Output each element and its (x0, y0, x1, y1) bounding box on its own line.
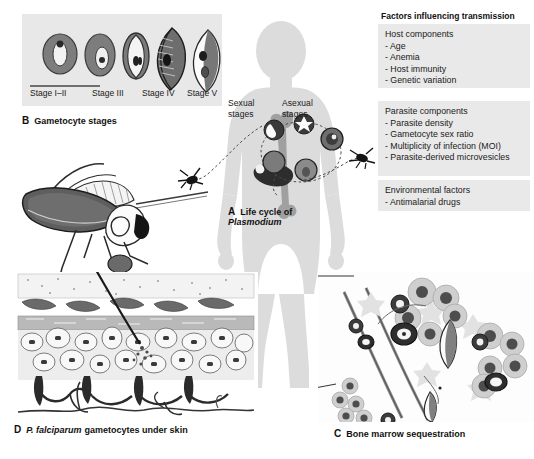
panel-a-caption-line2: Plasmodium (228, 217, 338, 227)
gametocyte-stage-1-2 (43, 34, 77, 74)
factors-group-1-item-1: - Gametocyte sex ratio (385, 129, 530, 141)
panel-a-caption: A Life cycle of Plasmodium (228, 206, 338, 227)
factors-parasite-components-box: Parasite components - Parasite density -… (378, 101, 530, 176)
panel-a-letter: A (228, 206, 235, 217)
factors-group-1-item-2: - Multiplicity of infection (MOI) (385, 141, 530, 153)
gametocyte-stage-1-2b (85, 34, 115, 76)
panel-d-letter: D (14, 424, 21, 435)
factors-title: Factors influencing transmission (381, 11, 515, 21)
panel-b-caption: B Gametocyte stages (22, 115, 117, 126)
factors-group-2-item-0: - Antimalarial drugs (385, 197, 530, 209)
panel-d-caption-italic: P. falciparum (26, 425, 81, 435)
panel-b-stage-labels: Stage I–II Stage III Stage IV Stage V (24, 88, 224, 102)
mosquito-large-illustration (8, 152, 213, 287)
mosquito-small-icon-right (349, 148, 375, 169)
panel-d-caption: D P. falciparum gametocytes under skin (14, 424, 188, 435)
factors-group-0-heading: Host components (385, 29, 530, 41)
factors-group-1-item-3: - Parasite-derived microvesicles (385, 152, 530, 164)
label-sexual-stages: Sexual stages (228, 98, 270, 120)
factors-group-1-heading: Parasite components (385, 106, 530, 118)
panel-d-caption-rest: gametocytes under skin (85, 425, 188, 435)
label-asexual-stages: Asexual stages (282, 98, 332, 120)
label-sexual-line1: Sexual (228, 98, 270, 109)
factors-group-0-item-1: - Anemia (385, 52, 530, 64)
factors-group-2-heading: Environmental factors (385, 185, 530, 197)
label-asexual-line1: Asexual (282, 98, 332, 109)
panel-b-letter: B (22, 115, 29, 126)
factors-group-0-item-2: - Host immunity (385, 64, 530, 76)
gametocyte-stage-3 (123, 33, 149, 79)
factors-group-0-item-0: - Age (385, 41, 530, 53)
transmission-path-from-mosquito (300, 130, 380, 200)
panel-c-caption-text: Bone marrow sequestration (346, 429, 465, 439)
factors-host-components-box: Host components - Age - Anemia - Host im… (378, 24, 530, 88)
panel-c-bone-marrow-illustration (318, 272, 534, 422)
stage-label-2: Stage III (92, 88, 124, 98)
gametocyte-stage-4 (157, 28, 185, 90)
panel-d-skin-section (14, 272, 258, 420)
panel-b-caption-text: Gametocyte stages (34, 116, 117, 126)
stage-label-3: Stage IV (142, 88, 175, 98)
panel-c-caption: C Bone marrow sequestration (334, 428, 465, 439)
label-sexual-line2: stages (228, 109, 270, 120)
figure-root: Stage I–II Stage III Stage IV Stage V B … (0, 0, 534, 459)
stage-label-1: Stage I–II (30, 88, 66, 98)
panel-a-caption-line1: Life cycle of (240, 207, 292, 217)
factors-group-1-item-0: - Parasite density (385, 118, 530, 130)
panel-c-letter: C (334, 428, 341, 439)
panel-b-scale-bar (30, 85, 100, 87)
factors-group-0-item-3: - Genetic variation (385, 75, 530, 87)
label-asexual-line2: stages (282, 109, 332, 120)
factors-environmental-box: Environmental factors - Antimalarial dru… (378, 180, 530, 211)
